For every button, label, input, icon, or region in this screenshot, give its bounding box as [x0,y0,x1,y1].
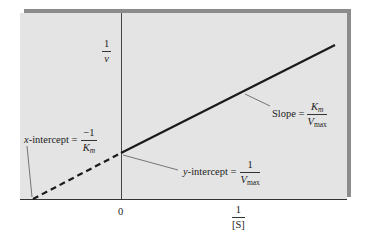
slope-denominator-sub: max [314,120,327,129]
y-intercept-label: -intercept = [188,166,237,177]
y-intercept-denominator-sub: max [247,178,260,187]
slope-fraction: Km Vmax [307,102,326,127]
slope-label: Slope = [272,109,304,120]
slope-numerator: K [311,101,318,112]
x-intercept-annotation: x-intercept = −1 Km [24,128,97,153]
lineweaver-burk-plot: 1 v Slope = Km Vmax x-intercept = −1 Km … [0,0,365,240]
slope-denominator: V [307,116,313,127]
panel-right-shadow [347,9,351,197]
x-intercept-denominator: K [83,142,90,153]
x-intercept-denominator-sub: m [90,146,95,155]
slope-numerator-sub: m [318,105,323,114]
x-intercept-fraction: −1 Km [81,128,96,153]
y-axis-numerator: 1 [102,39,111,51]
slope-annotation: Slope = Km Vmax [272,102,327,127]
x-intercept-label: -intercept = [29,134,78,145]
y-intercept-numerator: 1 [246,160,255,172]
y-axis-denominator: v [104,52,109,65]
x-axis-numerator: 1 [234,205,243,217]
y-axis-label: 1 v [102,39,111,64]
y-intercept-annotation: y-intercept = 1 Vmax [183,160,260,185]
y-intercept-denominator: V [240,174,246,185]
x-axis-denominator: [S] [232,218,245,231]
x-axis-label: 1 [S] [232,205,245,230]
origin-tick-label: 0 [118,207,123,218]
panel-top-shadow [24,9,351,13]
y-intercept-fraction: 1 Vmax [240,160,259,185]
x-intercept-numerator: −1 [81,128,96,140]
